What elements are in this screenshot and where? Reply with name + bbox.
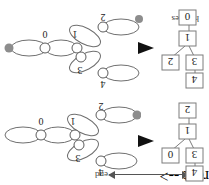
tree-node-label-0: 0 xyxy=(167,149,173,161)
vertex-circle-2 xyxy=(96,110,106,120)
graph-label-2: 2 xyxy=(99,101,104,112)
graph-label-2: 2 xyxy=(101,12,106,23)
graph-label-0: 0 xyxy=(43,29,48,40)
graph-label-4: 4 xyxy=(101,79,106,89)
vertex-circle-4 xyxy=(96,156,106,166)
panel-bottom: handles 0 1 3 2 4 xyxy=(0,4,209,92)
tree-node-label-root: 0 xyxy=(184,11,190,23)
graph-label-1: 1 xyxy=(73,29,78,40)
tree-bottom: 4 3 2 1 0 xyxy=(153,8,205,90)
graph-bottom: 0 1 3 2 4 xyxy=(3,8,141,88)
vertex-circle-3 xyxy=(74,140,84,150)
graph-label-3: 3 xyxy=(78,65,83,76)
graph-label-0: 0 xyxy=(39,116,44,127)
vertex-circle-1 xyxy=(72,43,82,53)
mapping-arrow-top-icon xyxy=(138,135,154,147)
tree-node-label-1: 1 xyxy=(185,125,191,137)
tree-node-label-4: 4 xyxy=(191,167,197,179)
graph-top: 0 1 3 2 4 xyxy=(3,101,141,181)
graph-label-1: 1 xyxy=(71,116,76,127)
vertex-circle-0 xyxy=(40,43,50,53)
panel-top: root --> end root xyxy=(0,97,209,185)
vertex-circle-4 xyxy=(98,68,108,78)
handle-dot-icon xyxy=(133,111,142,120)
graph-label-3: 3 xyxy=(76,153,81,164)
tree-node-label-2: 2 xyxy=(168,56,174,68)
mapping-arrow-bottom-icon xyxy=(138,42,154,54)
vertex-circle-1 xyxy=(70,130,80,140)
tree-node-label-3: 3 xyxy=(191,56,197,68)
handle-dot-icon xyxy=(5,44,14,53)
tree-node-label-1: 1 xyxy=(185,32,191,44)
tree-node-label-3: 3 xyxy=(191,149,197,161)
tree-node-label-root: 2 xyxy=(185,104,191,116)
vertex-circle-3 xyxy=(76,52,86,62)
graph-label-4: 4 xyxy=(99,167,104,178)
figure-root: root --> end root xyxy=(0,0,209,185)
tree-node-label-4: 4 xyxy=(191,74,197,86)
vertex-circle-0 xyxy=(36,130,46,140)
tree-top: 4 3 0 1 2 xyxy=(153,101,205,183)
vertex-circle-2 xyxy=(98,22,108,32)
